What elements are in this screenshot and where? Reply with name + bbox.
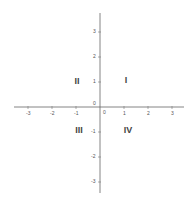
y-tick-label-neg2: -2 [91, 154, 95, 159]
y-tick-label-1: 1 [93, 79, 96, 84]
x-tick-label-neg1: -1 [74, 111, 78, 116]
x-tick-label-neg2: -2 [50, 111, 54, 116]
x-tick-label-neg3: -3 [26, 111, 30, 116]
x-tick-label-3: 3 [171, 111, 174, 116]
x-tick-label-1: 1 [123, 111, 126, 116]
quadrant-label-III: III [75, 126, 83, 135]
y-tick-label-neg1: -1 [91, 129, 95, 134]
quadrant-label-IV: IV [124, 126, 133, 135]
y-tick-label-3: 3 [93, 29, 96, 34]
quadrant-label-I: I [125, 76, 128, 85]
quadrant-label-II: II [74, 77, 79, 86]
x-tick-label-0: 0 [103, 110, 106, 115]
x-tick-label-2: 2 [147, 111, 150, 116]
y-tick-label-neg3: -3 [91, 179, 95, 184]
coordinate-plane [0, 0, 192, 203]
y-tick-label-2: 2 [93, 54, 96, 59]
y-tick-label-0: 0 [93, 101, 96, 106]
